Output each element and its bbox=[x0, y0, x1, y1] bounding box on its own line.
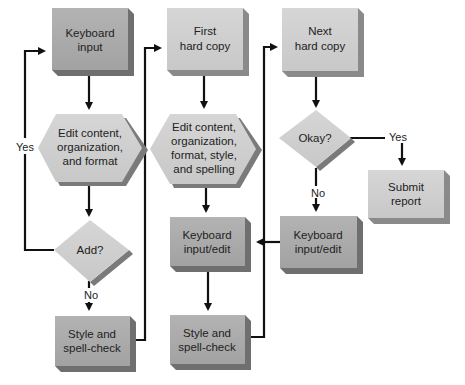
node-label: Keyboard bbox=[293, 229, 342, 241]
node-keyboard-input-edit-3: Keyboard input/edit bbox=[280, 216, 363, 274]
node-style-spell-check-2: Style and spell-check bbox=[170, 315, 251, 370]
node-submit-report: Submit report bbox=[368, 170, 450, 224]
node-label: organization, bbox=[171, 135, 237, 147]
node-edit-content-2: Edit content, organization, format, styl… bbox=[150, 114, 262, 188]
node-label: Keyboard bbox=[182, 229, 231, 241]
edge-label-yes: Yes bbox=[16, 141, 34, 153]
node-label: Edit content, bbox=[58, 127, 122, 139]
edge-label-no: No bbox=[311, 187, 325, 199]
flowchart: Keyboard input Edit content, organizatio… bbox=[0, 0, 465, 385]
node-label: and spelling bbox=[173, 163, 234, 175]
arrow-style1-to-first-copy bbox=[133, 48, 160, 340]
node-label: Submit bbox=[388, 181, 425, 193]
node-label: Edit content, bbox=[172, 121, 236, 133]
node-label: Add? bbox=[77, 244, 104, 256]
node-label: Next bbox=[308, 25, 332, 37]
node-label: input/edit bbox=[184, 243, 231, 255]
node-style-spell-check-1: Style and spell-check bbox=[55, 316, 136, 372]
node-keyboard-input: Keyboard input bbox=[52, 8, 134, 76]
node-label: format, style, bbox=[171, 149, 237, 161]
node-label: input bbox=[78, 41, 104, 53]
node-label: First bbox=[194, 25, 217, 37]
node-label: spell-check bbox=[63, 342, 121, 354]
node-edit-content-1: Edit content, organization, and format bbox=[38, 114, 148, 186]
decision-add: Add? bbox=[54, 220, 133, 286]
decision-okay: Okay? bbox=[279, 110, 355, 171]
edge-label-no: No bbox=[84, 289, 98, 301]
node-label: spell-check bbox=[178, 341, 236, 353]
node-label: input/edit bbox=[295, 243, 342, 255]
node-keyboard-input-edit-2: Keyboard input/edit bbox=[170, 217, 251, 272]
node-label: Style and bbox=[183, 327, 231, 339]
node-label: report bbox=[391, 195, 422, 207]
node-label: Keyboard bbox=[65, 27, 114, 39]
arrow-style2-to-next-copy bbox=[247, 47, 276, 337]
node-label: hard copy bbox=[295, 40, 346, 52]
node-label: Style and bbox=[68, 328, 116, 340]
node-label: Okay? bbox=[298, 132, 331, 144]
node-first-hard-copy: First hard copy bbox=[167, 8, 249, 76]
node-next-hard-copy: Next hard copy bbox=[282, 8, 364, 77]
edge-label-yes: Yes bbox=[389, 131, 407, 143]
node-label: and format bbox=[63, 155, 119, 167]
node-label: organization, bbox=[57, 141, 123, 153]
node-label: hard copy bbox=[180, 40, 231, 52]
